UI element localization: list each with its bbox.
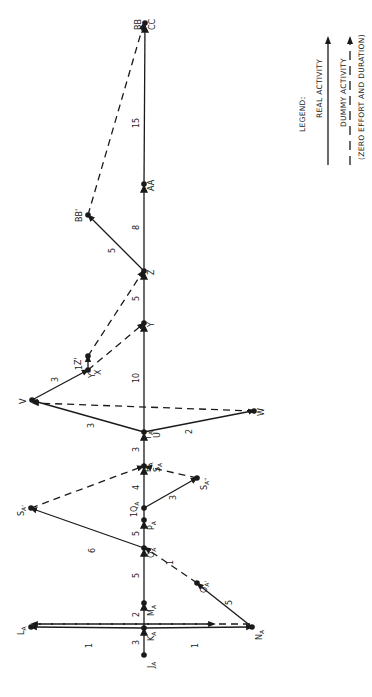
- node-z: [141, 268, 147, 274]
- legend-real-label: REAL ACTIVITY: [315, 59, 324, 118]
- label-cc: CC: [148, 18, 157, 30]
- activity-ka-na: [144, 627, 250, 628]
- dummy-sap-ra: [31, 467, 141, 508]
- node-sapp: [194, 475, 200, 481]
- duration-v-yp: 3: [51, 377, 60, 382]
- node-w: [251, 408, 257, 414]
- node-y: [141, 320, 147, 326]
- node-na: [249, 624, 255, 630]
- node-pa: [141, 517, 147, 523]
- label-ma: MA: [147, 604, 157, 616]
- duration-ma-oa: 5: [132, 573, 141, 578]
- duration-qa-sapp: 3: [169, 495, 178, 500]
- node-oap: [194, 580, 200, 586]
- duration-y-z: 5: [132, 296, 141, 301]
- label-z: Z: [147, 269, 156, 275]
- label-y: Y: [147, 322, 156, 328]
- duration-labels: 3 2 1 1 5 5 1 5 6 1 4 3 3 3 2 10 3 1 5 5…: [51, 118, 234, 648]
- duration-aa-bb: 15: [132, 118, 141, 128]
- label-u: U: [153, 432, 162, 438]
- duration-ka-na: 1: [191, 643, 200, 648]
- label-pa: PA: [147, 520, 157, 530]
- activity-lines: [32, 23, 252, 655]
- label-ja: JA: [147, 661, 157, 669]
- legend: LEGEND: REAL ACTIVITY DUMMY ACTIVITY (ZE…: [298, 34, 366, 165]
- label-qa: QA: [130, 501, 140, 512]
- activity-qa-sapp: [144, 479, 195, 508]
- activity-aa-bb: [144, 23, 145, 184]
- duration-ja-ka: 3: [132, 640, 141, 645]
- node-bbp: [85, 212, 91, 218]
- label-zp: Z': [74, 357, 83, 365]
- label-oa: OA: [147, 547, 157, 558]
- duration-ka-la: 1: [85, 643, 94, 648]
- duration-yp-zp: 1: [75, 365, 84, 370]
- label-bbp: BB': [75, 209, 84, 222]
- duration-oa-sap: 6: [88, 548, 97, 553]
- duration-pa-qa: 1: [130, 512, 139, 517]
- label-w: W: [257, 408, 266, 416]
- activity-network-diagram: JA KA LA MA NA OA OA' PA QA SA' SA'' RA …: [0, 0, 372, 697]
- legend-dummy-arrow-icon: [347, 36, 353, 44]
- duration-qa-ra: 4: [132, 485, 141, 490]
- label-sa: SA: [153, 462, 163, 472]
- duration-oap-oa: 1: [166, 560, 175, 565]
- node-ja: [141, 652, 147, 658]
- duration-oa-pa: 5: [132, 531, 141, 536]
- label-na: NA: [255, 629, 265, 640]
- node-bb: [142, 20, 148, 26]
- activity-v-yp: [32, 371, 86, 400]
- legend-title: LEGEND:: [298, 97, 307, 132]
- dummy-zp-z: [88, 273, 142, 356]
- label-bb: BB: [134, 19, 143, 30]
- legend-dummy-note: (ZERO EFFORT AND DURATION): [357, 34, 366, 160]
- duration-ta-v: 3: [87, 423, 96, 428]
- label-aa: AA: [147, 179, 156, 191]
- label-la: LA: [17, 626, 27, 635]
- label-x: X: [94, 369, 103, 375]
- node-la: [28, 624, 34, 630]
- label-oap: OA': [200, 581, 210, 593]
- legend-real-arrow-icon: [325, 36, 331, 44]
- label-ka: KA: [147, 631, 157, 641]
- legend-dummy-label: DUMMY ACTIVITY: [339, 58, 348, 127]
- duration-ra-ta: 3: [132, 447, 141, 452]
- node-zp: [85, 353, 91, 359]
- label-v: V: [19, 398, 28, 404]
- node-ma: [141, 600, 147, 606]
- node-oa: [141, 545, 147, 551]
- node-ka: [141, 625, 147, 631]
- label-sapp: SA'': [200, 477, 210, 490]
- dummy-yp-y: [88, 325, 142, 370]
- duration-z-bbp: 5: [108, 248, 117, 253]
- label-sap: SA': [17, 505, 27, 516]
- node-v: [29, 397, 35, 403]
- activity-ka-la: [33, 627, 144, 628]
- duration-z-aa: 8: [132, 225, 141, 230]
- duration-na-oap: 5: [225, 600, 234, 605]
- duration-ka-ma: 2: [132, 612, 141, 617]
- event-nodes: [28, 20, 257, 658]
- activity-oa-sap: [33, 509, 144, 548]
- node-qa: [141, 505, 147, 511]
- duration-ta-w: 2: [185, 429, 194, 434]
- duration-ta-y: 10: [132, 373, 141, 383]
- node-labels: JA KA LA MA NA OA OA' PA QA SA' SA'' RA …: [17, 18, 266, 669]
- activity-ta-w: [144, 411, 252, 432]
- node-aa: [141, 181, 147, 187]
- node-sap: [28, 505, 34, 511]
- node-ta: [141, 429, 147, 435]
